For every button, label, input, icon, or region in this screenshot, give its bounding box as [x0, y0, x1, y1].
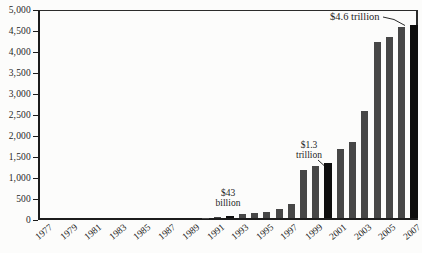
x-tick-label-1989: 1989 [181, 222, 202, 242]
annotation-43-billion: $43 billion [203, 188, 253, 208]
annotation-1-3-trillion: $1.3 trillion [284, 140, 334, 160]
x-tick-label-1997: 1997 [279, 222, 300, 242]
x-tick-label-1983: 1983 [107, 222, 128, 242]
y-tick-label-4000: 4,000 [0, 47, 31, 57]
bar-1997 [288, 204, 295, 218]
y-tick-label-3000: 3,000 [0, 89, 31, 99]
bar-1993 [239, 214, 246, 218]
bar-1999 [312, 166, 319, 218]
x-tick-label-2005: 2005 [377, 222, 398, 242]
x-tick-label-1985: 1985 [132, 222, 153, 242]
y-tick-label-1000: 1,000 [0, 173, 31, 183]
annotation-line: $43 [203, 188, 253, 198]
bar-1992 [226, 216, 234, 218]
y-tick-label-0: 0 [0, 215, 31, 225]
annotation-line: $1.3 [284, 140, 334, 150]
y-tick-label-1500: 1,500 [0, 152, 31, 162]
y-tick-label-3500: 3,500 [0, 68, 31, 78]
bar-1995 [263, 212, 270, 219]
bar-2000 [324, 163, 332, 218]
bar-2005 [386, 37, 393, 218]
bar-1994 [251, 213, 258, 218]
y-tick-mark [33, 31, 38, 32]
x-tick-label-1993: 1993 [230, 222, 251, 242]
x-tick-label-1979: 1979 [58, 222, 79, 242]
y-tick-label-2500: 2,500 [0, 110, 31, 120]
y-tick-mark [33, 136, 38, 137]
bar-1991 [214, 217, 221, 218]
y-tick-mark [33, 157, 38, 158]
annotation-line: $4.6 trillion [330, 11, 380, 22]
bar-2002 [349, 142, 356, 218]
bar-1998 [300, 170, 307, 218]
y-tick-mark [33, 178, 38, 179]
y-tick-label-2000: 2,000 [0, 131, 31, 141]
y-tick-mark [33, 10, 38, 11]
bar-2007 [410, 25, 418, 218]
annotation-line: billion [203, 198, 253, 208]
y-tick-mark [33, 115, 38, 116]
y-tick-label-4500: 4,500 [0, 26, 31, 36]
y-tick-mark [33, 52, 38, 53]
bar-1996 [276, 209, 283, 218]
bar-2001 [337, 149, 344, 218]
x-tick-label-2001: 2001 [328, 222, 349, 242]
x-tick-label-1977: 1977 [34, 222, 55, 242]
x-tick-label-1995: 1995 [254, 222, 275, 242]
annotation-4-6-trillion: $4.6 trillion [330, 11, 380, 22]
bar-chart-figure: 5,0004,5004,0003,5003,0002,5002,0001,500… [0, 0, 422, 253]
x-tick-label-1999: 1999 [303, 222, 324, 242]
y-tick-label-500: 500 [0, 194, 31, 204]
y-tick-mark [33, 94, 38, 95]
y-tick-mark [33, 220, 38, 221]
x-tick-label-1981: 1981 [83, 222, 104, 242]
bar-2006 [398, 27, 405, 218]
y-tick-mark [33, 73, 38, 74]
x-tick-label-1987: 1987 [156, 222, 177, 242]
bar-2004 [374, 42, 381, 218]
x-tick-label-2003: 2003 [352, 222, 373, 242]
y-tick-label-5000: 5,000 [0, 5, 31, 15]
x-tick-label-1991: 1991 [205, 222, 226, 242]
annotation-line: trillion [284, 150, 334, 160]
x-tick-label-2007: 2007 [401, 222, 422, 242]
bar-2003 [361, 111, 368, 218]
y-tick-mark [33, 199, 38, 200]
